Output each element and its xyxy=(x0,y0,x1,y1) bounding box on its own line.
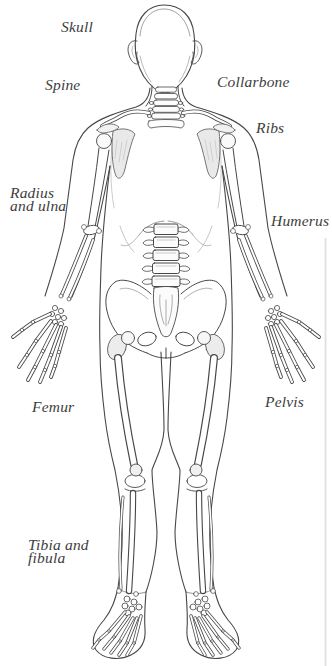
label-spine: Spine xyxy=(45,79,80,92)
lumbar-spine xyxy=(142,224,190,287)
skull-outline xyxy=(128,5,202,93)
cervical-spine xyxy=(147,87,184,128)
label-radius-and-ulna: Radius and ulna xyxy=(10,187,66,212)
label-tibia-and-fibula: Tibia and fibula xyxy=(28,539,89,564)
skeleton-half xyxy=(13,88,166,658)
label-femur: Femur xyxy=(32,401,74,414)
label-humerus: Humerus xyxy=(271,215,329,228)
skeleton-diagram: Skull Spine Collarbone Ribs Radius and u… xyxy=(0,0,332,666)
label-ribs: Ribs xyxy=(256,122,284,135)
skeleton-illustration xyxy=(0,0,332,666)
label-pelvis: Pelvis xyxy=(265,396,304,409)
sacrum xyxy=(153,287,178,359)
label-skull: Skull xyxy=(61,21,93,34)
label-collarbone: Collarbone xyxy=(217,76,290,89)
